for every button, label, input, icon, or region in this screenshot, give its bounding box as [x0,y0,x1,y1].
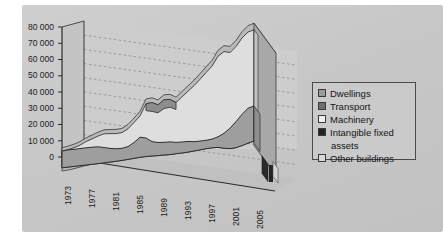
x-tick-label: 2001 [231,207,241,226]
legend-label: Intangible fixed [330,126,394,139]
x-tick-label: 1989 [159,198,169,217]
right-face-dwellings [254,106,260,152]
other-buildings-swatch [318,154,326,162]
legend-label: Dwellings [330,87,371,100]
x-tick-label: 1977 [87,189,97,208]
y-tick-label: 60 000 [10,54,54,64]
legend-label: Other buildings [330,152,394,165]
x-tick-label: 1993 [183,201,193,220]
legend-item-intangible-continuation: assets [318,139,411,152]
x-tick-label: 1985 [135,195,145,214]
chart-screenshot: 80 000 70 000 60 000 50 000 40 000 30 00… [0,0,443,245]
dwellings-swatch [318,89,326,97]
legend-label: Transport [330,100,370,113]
y-tick-label: 10 000 [10,136,54,146]
x-tick-label: 1981 [111,192,121,211]
legend-item-dwellings[interactable]: Dwellings [318,87,411,100]
legend-label-continuation: assets [331,139,358,152]
legend-item-other-buildings[interactable]: Other buildings [318,152,411,165]
y-tick-label: 70 000 [10,38,54,48]
legend-item-intangible-fixed-assets[interactable]: Intangible fixed [318,126,411,139]
y-tick-label: 50 000 [10,70,54,80]
transport-swatch [318,102,326,110]
legend: Dwellings Transport Machinery Intangible… [312,82,416,160]
intangible-sliver [269,165,273,182]
y-tick-label: 80 000 [10,22,54,32]
x-tick-label: 1997 [207,204,217,223]
y-tick-label: 20 000 [10,119,54,129]
machinery-swatch [318,115,326,123]
legend-item-transport[interactable]: Transport [318,100,411,113]
intangible-swatch [318,128,326,136]
legend-item-machinery[interactable]: Machinery [318,113,411,126]
x-tick-label: 1973 [63,186,73,205]
y-tick-label: 40 000 [10,87,54,97]
left-wall [62,21,84,157]
y-tick-label: 30 000 [10,103,54,113]
legend-label: Machinery [330,113,374,126]
x-tick-label: 2005 [255,210,265,229]
y-tick-label: 0 [10,152,54,162]
